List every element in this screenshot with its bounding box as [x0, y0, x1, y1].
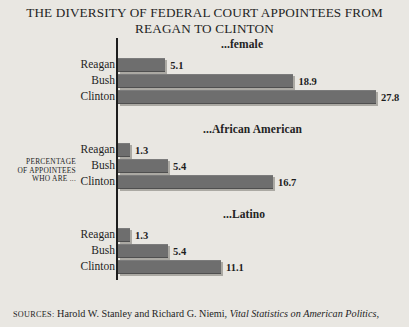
bar-value-label: 5.4	[173, 161, 186, 172]
category-label: Clinton	[15, 89, 115, 103]
bar: 16.7	[118, 175, 273, 189]
bar-wrapper: 1.3	[118, 143, 130, 157]
bar: 1.3	[118, 143, 130, 157]
bar-value-label: 11.1	[226, 262, 244, 273]
bar-rows: Reagan 1.3 Bush 5.4	[0, 228, 409, 274]
bar: 5.4	[118, 244, 168, 258]
bar-wrapper: 5.1	[118, 58, 165, 72]
bar: 27.8	[118, 90, 376, 104]
bar-wrapper: 11.1	[118, 260, 221, 274]
bar-wrapper: 16.7	[118, 175, 273, 189]
y-axis-caption-line-3: WHO ARE ...	[2, 175, 76, 184]
source-work-title: Vital Statistics on American Politics,	[230, 308, 379, 319]
bar-row: Bush 18.9	[0, 74, 409, 88]
bar-wrapper: 5.4	[118, 244, 168, 258]
bar-row: Bush 5.4	[0, 244, 409, 258]
bar-row: Clinton 11.1	[0, 260, 409, 274]
category-label: Clinton	[15, 259, 115, 273]
source-label: SOURCES:	[13, 310, 55, 319]
figure-title-line-1: THE DIVERSITY OF FEDERAL COURT APPOINTEE…	[26, 5, 383, 20]
bar-row: Clinton 27.8	[0, 90, 409, 104]
source-authors: Harold W. Stanley and Richard G. Niemi,	[57, 308, 227, 319]
bar-row: Reagan 1.3	[0, 228, 409, 242]
bar-wrapper: 1.3	[118, 228, 130, 242]
category-label: Bush	[15, 73, 115, 87]
bar-rows: Reagan 5.1 Bush 18.9	[0, 58, 409, 104]
bar-group-label: ...female	[221, 38, 263, 50]
bar-group-label: ...Latino	[223, 208, 265, 220]
bar-row: Reagan 1.3	[0, 143, 409, 157]
bar-value-label: 18.9	[298, 76, 316, 87]
bar-wrapper: 18.9	[118, 74, 293, 88]
bar-group-label: ...African American	[203, 123, 302, 135]
bar: 5.1	[118, 58, 165, 72]
figure-container: THE DIVERSITY OF FEDERAL COURT APPOINTEE…	[0, 0, 409, 327]
bar-row: Reagan 5.1	[0, 58, 409, 72]
category-label: Bush	[15, 243, 115, 257]
bar-value-label: 1.3	[135, 230, 148, 241]
bar-value-label: 16.7	[278, 177, 296, 188]
category-label: Reagan	[15, 227, 115, 241]
category-label: Reagan	[15, 57, 115, 71]
bar-value-label: 5.4	[173, 246, 186, 257]
bar-value-label: 27.8	[381, 92, 399, 103]
bar-value-label: 5.1	[170, 60, 183, 71]
bar-wrapper: 5.4	[118, 159, 168, 173]
figure-title: THE DIVERSITY OF FEDERAL COURT APPOINTEE…	[0, 5, 409, 37]
source-note: SOURCES: Harold W. Stanley and Richard G…	[13, 307, 409, 321]
value-axis-line	[116, 38, 118, 280]
category-label: Reagan	[15, 142, 115, 156]
bar: 11.1	[118, 260, 221, 274]
figure-title-line-2: REAGAN TO CLINTON	[0, 21, 409, 37]
bar: 1.3	[118, 228, 130, 242]
bar-value-label: 1.3	[135, 145, 148, 156]
bar: 18.9	[118, 74, 293, 88]
y-axis-caption: PERCENTAGE OF APPOINTEES WHO ARE ...	[2, 158, 76, 184]
bar-wrapper: 27.8	[118, 90, 376, 104]
bar: 5.4	[118, 159, 168, 173]
